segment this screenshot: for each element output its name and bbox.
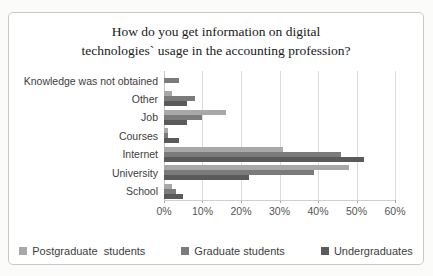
chart-row: Courses <box>164 127 395 145</box>
bar <box>164 78 179 83</box>
chart-row: Knowledge was not obtained <box>164 71 395 89</box>
legend-item: Graduate students <box>181 245 285 257</box>
bar <box>164 101 187 106</box>
axis-tick <box>395 200 396 203</box>
bar <box>164 194 183 199</box>
category-label: Internet <box>122 148 164 160</box>
category-label: Knowledge was not obtained <box>24 75 164 87</box>
plot-rows: Knowledge was not obtainedOtherJobCourse… <box>164 71 395 200</box>
bar <box>164 138 179 143</box>
chart-frame: How do you get information on digital te… <box>8 12 424 265</box>
x-axis-tick-label: 40% <box>307 205 328 217</box>
x-axis-line <box>164 200 395 201</box>
category-label: School <box>126 185 164 197</box>
chart-title-line-2: technologies` usage in the accounting pr… <box>9 41 423 60</box>
category-label: University <box>112 167 164 179</box>
screenshot: { "figure": { "title_lines": [ "How do y… <box>0 0 433 276</box>
category-label: Job <box>141 111 164 123</box>
chart-row: Job <box>164 108 395 126</box>
x-axis-labels: 0%10%20%30%40%50%60% <box>164 205 395 218</box>
x-axis-tick-label: 0% <box>156 205 171 217</box>
x-axis-tick-label: 60% <box>384 205 405 217</box>
bar <box>164 120 187 125</box>
chart-title-line-1: How do you get information on digital <box>9 22 423 41</box>
legend-item: Undergraduates <box>321 245 413 257</box>
category-label: Other <box>132 93 164 105</box>
x-axis-tick-label: 20% <box>230 205 251 217</box>
bar <box>164 175 249 180</box>
x-axis-tick-label: 10% <box>192 205 213 217</box>
bar <box>164 157 364 162</box>
x-axis-tick-label: 30% <box>269 205 290 217</box>
legend: Postgraduate studentsGraduate studentsUn… <box>9 245 423 257</box>
legend-label: Postgraduate students <box>32 245 145 257</box>
chart-row: Other <box>164 90 395 108</box>
legend-item: Postgraduate students <box>19 245 145 257</box>
legend-swatch <box>19 247 27 255</box>
chart-row: School <box>164 182 395 200</box>
gridline <box>395 71 396 200</box>
chart-row: Internet <box>164 145 395 163</box>
legend-swatch <box>181 247 189 255</box>
legend-label: Graduate students <box>194 245 285 257</box>
legend-swatch <box>321 247 329 255</box>
legend-label: Undergraduates <box>334 245 413 257</box>
x-axis-tick-label: 50% <box>346 205 367 217</box>
chart-title: How do you get information on digital te… <box>9 22 423 60</box>
plot-area: Knowledge was not obtainedOtherJobCourse… <box>164 71 395 200</box>
category-label: Courses <box>119 130 164 142</box>
chart-row: University <box>164 163 395 181</box>
